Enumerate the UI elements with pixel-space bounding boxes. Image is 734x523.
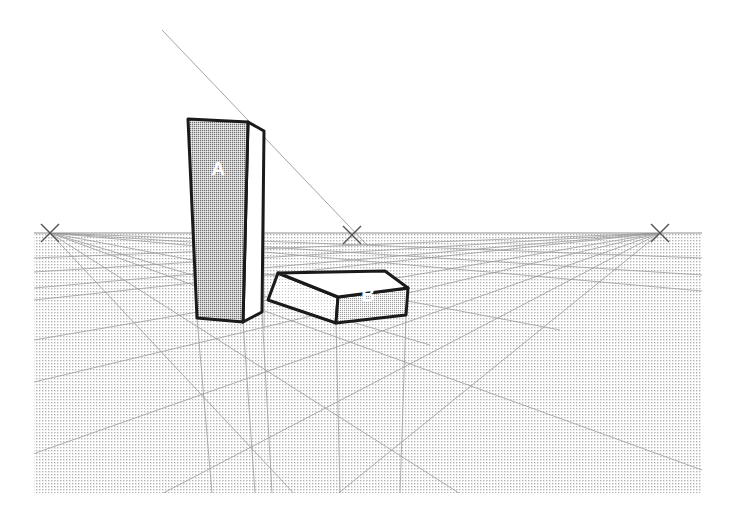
perspective-diagram-canvas: B A — [0, 0, 734, 523]
tower-a: A — [188, 119, 264, 322]
box-b-label: B — [361, 284, 375, 305]
perspective-scene: B A — [0, 0, 734, 523]
tower-a-front-face — [188, 119, 248, 322]
tower-a-label: A — [211, 158, 225, 179]
